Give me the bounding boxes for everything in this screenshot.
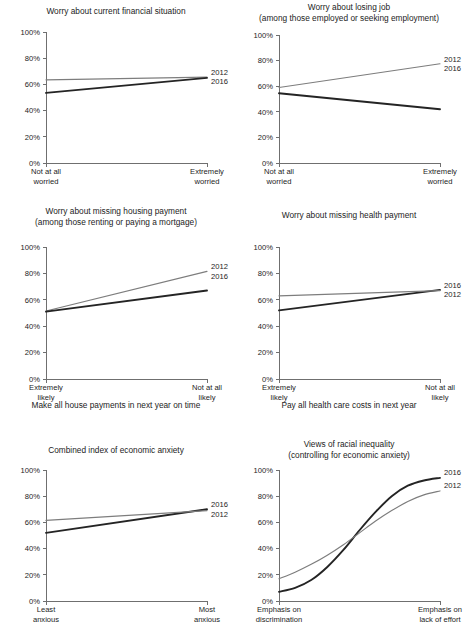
x-category-label: worried: [33, 177, 59, 186]
y-tick-label: 40%: [257, 322, 272, 331]
y-tick-label: 100%: [253, 466, 273, 475]
series-end-label-2012: 2012: [444, 55, 461, 64]
series-line-2012: [279, 491, 440, 579]
series-line-2016: [279, 478, 440, 592]
chart-title-line: (controlling for economic anxiety): [288, 450, 410, 460]
series-end-label-2012: 2012: [444, 481, 461, 490]
series-line-2016: [46, 509, 207, 533]
chart-title-line: Worry about missing health payment: [281, 210, 416, 220]
series-line-2016: [46, 78, 207, 93]
x-category-label: likely: [199, 393, 216, 402]
chart-title-line: Worry about missing housing payment: [46, 206, 188, 216]
y-tick-label: 20%: [257, 133, 272, 142]
chart-svg-2: Worry about missing housing payment(amon…: [0, 200, 233, 425]
chart-panel-worry-missing-housing-payment: Worry about missing housing payment(amon…: [0, 200, 233, 425]
series-end-label-2012: 2012: [211, 68, 228, 77]
x-category-label: Emphasis on: [418, 605, 462, 614]
x-category-label: discrimination: [255, 615, 301, 624]
chart-svg-5: Views of racial inequality(controlling f…: [233, 425, 465, 643]
series-end-label-2012: 2012: [444, 290, 461, 299]
x-axis-caption: Make all house payments in next year on …: [32, 400, 201, 410]
x-category-label: Extremely: [190, 167, 224, 176]
y-tick-label: 100%: [21, 28, 41, 37]
y-tick-label: 80%: [25, 492, 40, 501]
series-line-2012: [46, 271, 207, 311]
y-tick-label: 80%: [25, 269, 40, 278]
series-line-2012: [279, 64, 440, 88]
y-tick-label: 100%: [253, 31, 273, 40]
y-tick-label: 60%: [25, 518, 40, 527]
y-tick-label: 40%: [257, 544, 272, 553]
x-category-label: Extremely: [423, 167, 457, 176]
chart-svg-0: Worry about current financial situation0…: [0, 0, 233, 200]
y-tick-label: 80%: [25, 54, 40, 63]
x-category-label: worried: [265, 177, 291, 186]
chart-title-line: Views of racial inequality: [303, 439, 395, 449]
y-tick-label: 80%: [257, 56, 272, 65]
series-end-label-2012: 2012: [211, 510, 228, 519]
y-tick-label: 80%: [257, 492, 272, 501]
chart-title-line: (among those renting or paying a mortgag…: [35, 217, 197, 227]
chart-panel-worry-current-financial-situation: Worry about current financial situation0…: [0, 0, 233, 200]
x-category-label: anxious: [194, 615, 220, 624]
x-category-label: Not at all: [425, 383, 455, 392]
series-end-label-2016: 2016: [444, 64, 461, 73]
y-tick-label: 40%: [25, 106, 40, 115]
y-tick-label: 100%: [21, 466, 41, 475]
series-end-label-2012: 2012: [211, 262, 228, 271]
x-category-label: Emphasis on: [257, 605, 301, 614]
y-tick-label: 60%: [257, 518, 272, 527]
x-category-label: anxious: [33, 615, 59, 624]
chart-title-line: Worry about losing job: [307, 2, 390, 12]
x-category-label: Not at all: [31, 167, 61, 176]
series-line-2016: [279, 93, 440, 109]
chart-title-line: Combined index of economic anxiety: [48, 445, 184, 455]
x-category-label: likely: [431, 393, 448, 402]
y-tick-label: 60%: [257, 82, 272, 91]
y-tick-label: 60%: [25, 80, 40, 89]
x-category-label: Not at all: [192, 383, 222, 392]
x-category-label: worried: [426, 177, 452, 186]
chart-title-line: (among those employed or seeking employm…: [259, 13, 439, 23]
series-line-2016: [46, 291, 207, 312]
y-tick-label: 100%: [253, 243, 273, 252]
y-tick-label: 60%: [25, 296, 40, 305]
chart-panel-worry-losing-job: Worry about losing job(among those emplo…: [233, 0, 465, 200]
y-tick-label: 40%: [257, 108, 272, 117]
chart-panel-worry-missing-health-payment: Worry about missing health payment0%20%4…: [233, 200, 465, 425]
y-tick-label: 40%: [25, 544, 40, 553]
chart-svg-1: Worry about losing job(among those emplo…: [233, 0, 465, 200]
y-tick-label: 80%: [257, 269, 272, 278]
y-tick-label: 100%: [21, 243, 41, 252]
series-end-label-2016: 2016: [444, 468, 461, 477]
x-category-label: Most: [199, 605, 216, 614]
series-end-label-2016: 2016: [211, 272, 228, 281]
y-tick-label: 20%: [25, 133, 40, 142]
chart-grid: Worry about current financial situation0…: [0, 0, 465, 643]
y-tick-label: 40%: [25, 322, 40, 331]
y-tick-label: 20%: [25, 348, 40, 357]
x-category-label: lack of effort: [419, 615, 461, 624]
series-end-label-2016: 2016: [444, 281, 461, 290]
x-category-label: Extremely: [29, 383, 63, 392]
x-category-label: Least: [37, 605, 56, 614]
y-tick-label: 60%: [257, 296, 272, 305]
series-line-2012: [46, 511, 207, 521]
chart-title-line: Worry about current financial situation: [46, 6, 186, 16]
y-tick-label: 20%: [257, 348, 272, 357]
chart-svg-4: Combined index of economic anxiety0%20%4…: [0, 425, 233, 643]
x-axis-caption: Pay all health care costs in next year: [281, 400, 416, 410]
chart-panel-combined-index-economic-anxiety: Combined index of economic anxiety0%20%4…: [0, 425, 233, 643]
y-tick-label: 20%: [25, 571, 40, 580]
chart-svg-3: Worry about missing health payment0%20%4…: [233, 200, 465, 425]
x-category-label: Not at all: [264, 167, 294, 176]
series-end-label-2016: 2016: [211, 500, 228, 509]
series-end-label-2016: 2016: [211, 77, 228, 86]
chart-panel-views-racial-inequality: Views of racial inequality(controlling f…: [233, 425, 465, 643]
x-category-label: Extremely: [262, 383, 296, 392]
x-category-label: worried: [194, 177, 220, 186]
y-tick-label: 20%: [257, 571, 272, 580]
